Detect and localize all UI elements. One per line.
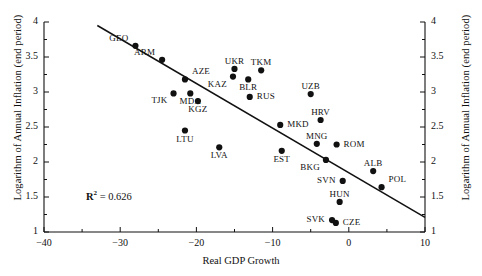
data-point-rom [334,141,340,147]
tick-marks [44,22,425,232]
data-point-tkm [258,67,264,73]
scatter-chart-figure: Logarithm of Annual Inflation (end perio… [0,0,482,276]
data-point-uzb [308,91,314,97]
data-point-pol [378,184,384,190]
data-point-kgz [195,98,201,104]
axis-frame [44,22,425,232]
data-point-ukr [231,66,237,72]
data-point-lva [216,144,222,150]
plot-area [0,0,482,276]
data-points [132,43,384,226]
data-point-hun [337,199,343,205]
data-point-mkd [277,122,283,128]
data-point-ltu [182,127,188,133]
data-point-bkg [323,157,329,163]
data-point-blr [245,76,251,82]
data-point-aze [182,76,188,82]
data-point-mda [187,90,193,96]
data-point-kaz [230,74,236,80]
data-point-geo [132,43,138,49]
data-point-tjk [170,90,176,96]
regression-line [97,26,425,218]
data-point-est [279,148,285,154]
data-point-mng [314,141,320,147]
data-point-arm [159,57,165,63]
data-point-alb [370,168,376,174]
data-point-rus [247,94,253,100]
data-point-svn [340,178,346,184]
data-point-cze [333,220,339,226]
data-point-hrv [318,117,324,123]
